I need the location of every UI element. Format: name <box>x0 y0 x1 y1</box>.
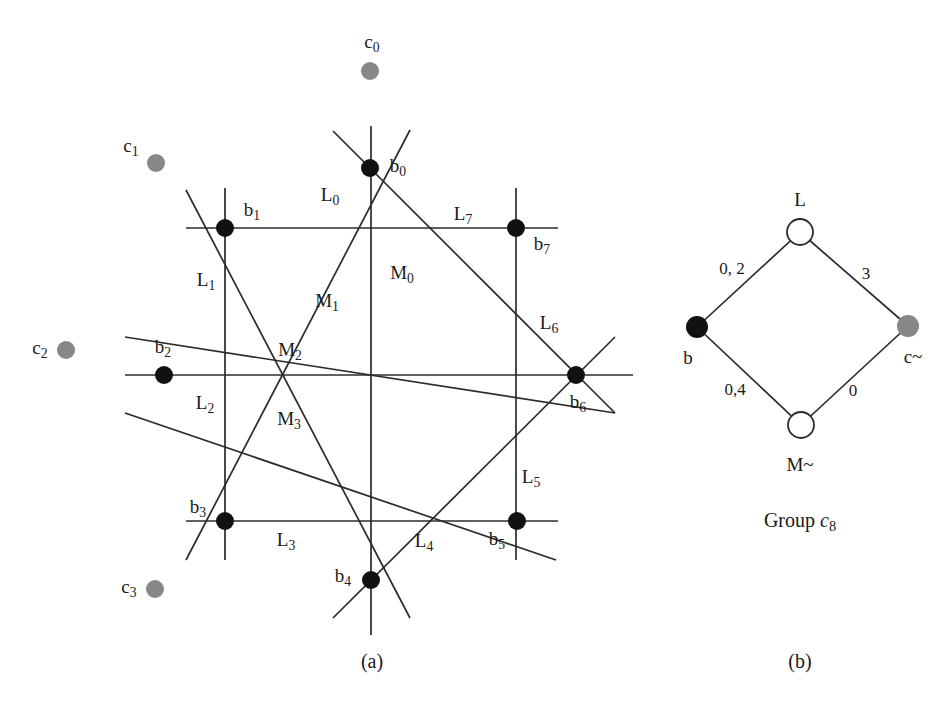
label-c0: c0 <box>364 32 379 55</box>
node-b6 <box>567 366 585 384</box>
label-b4: b4 <box>335 566 351 589</box>
edge-weight-edge-M-c: 0 <box>849 382 858 399</box>
label-b0: b0 <box>390 156 406 179</box>
label-L0: L0 <box>321 185 339 208</box>
node-b7 <box>507 219 525 237</box>
node-c3 <box>146 580 164 598</box>
label-c3: c3 <box>121 577 136 600</box>
node-b1 <box>216 219 234 237</box>
label-L5: L5 <box>522 467 540 490</box>
label-b6: b6 <box>570 392 586 415</box>
label-M1: M1 <box>315 291 339 314</box>
node-b0 <box>361 159 379 177</box>
edge-M-c <box>801 326 908 425</box>
node-c1 <box>147 154 165 172</box>
label-b3: b3 <box>190 497 206 520</box>
label-node-L: L <box>794 190 806 209</box>
edge-weight-edge-L-c: 3 <box>862 265 871 282</box>
label-L2: L2 <box>196 393 214 416</box>
node-c0 <box>361 62 379 80</box>
subfigure-label-a: (a) <box>361 650 383 673</box>
group-caption: Group c8 <box>764 509 836 535</box>
node-b <box>686 316 708 338</box>
node-c2 <box>57 341 75 359</box>
subfigure-label-b: (b) <box>788 650 811 673</box>
edge-weight-edge-b-M: 0,4 <box>724 381 745 398</box>
label-c1: c1 <box>123 136 138 159</box>
label-b2: b2 <box>155 337 171 360</box>
label-b7: b7 <box>534 234 550 257</box>
panel-a-lines <box>125 126 633 635</box>
label-M3: M3 <box>277 409 301 432</box>
label-L3: L3 <box>277 530 295 553</box>
label-M0: M0 <box>390 263 414 286</box>
label-node-c-tilde: c~ <box>904 347 923 366</box>
node-b4 <box>362 571 380 589</box>
label-b5: b5 <box>489 529 505 552</box>
label-c2: c2 <box>32 338 47 361</box>
label-node-M-tilde: M~ <box>786 455 813 474</box>
label-L1: L1 <box>197 270 215 293</box>
node-c-tilde <box>897 315 919 337</box>
edge-L-c <box>800 232 908 326</box>
edge-weight-edge-b-L: 0, 2 <box>719 260 745 277</box>
node-b3 <box>216 512 234 530</box>
label-node-b: b <box>683 348 693 367</box>
panel-b-nodes <box>686 219 919 438</box>
node-M-tilde <box>788 412 814 438</box>
label-M2: M2 <box>278 340 302 363</box>
label-b1: b1 <box>244 200 260 223</box>
figure-canvas <box>0 0 949 705</box>
node-L <box>787 219 813 245</box>
node-b2 <box>155 366 173 384</box>
edge-b-M <box>697 327 801 425</box>
diag-b1-b4 <box>186 190 410 618</box>
label-L7: L7 <box>454 204 472 227</box>
label-L6: L6 <box>540 313 558 336</box>
figure-container: b0b1b2b3b4b5b6b7c0c1c2c3L0L1L2L3L4L5L6L7… <box>0 0 949 705</box>
edge-b-L <box>697 232 800 327</box>
node-b5 <box>508 512 526 530</box>
label-L4: L4 <box>415 531 433 554</box>
